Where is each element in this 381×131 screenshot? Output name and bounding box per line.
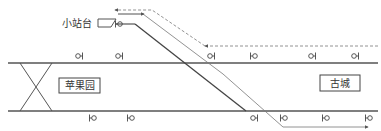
signal-icon	[281, 115, 288, 122]
siding-diagonal-track	[135, 24, 246, 111]
signal-icon	[309, 53, 316, 60]
signal-icon	[366, 115, 373, 122]
railway-diagram: 苹果园 古城 小站台	[0, 0, 381, 131]
solid-route-line	[118, 14, 368, 127]
signal-icon	[323, 115, 330, 122]
station-label-pingguoyuan: 苹果园	[65, 79, 95, 91]
signal-icon	[128, 115, 135, 122]
signal-icon	[352, 53, 359, 60]
signal-group-upper	[76, 53, 359, 60]
siding-label: 小站台	[62, 17, 92, 29]
signal-icon	[76, 53, 83, 60]
signal-group-lower	[90, 115, 373, 122]
siding-buffer	[98, 19, 116, 27]
signal-icon	[251, 115, 258, 122]
dashed-route-diagonal	[115, 10, 205, 46]
signal-icon	[116, 53, 123, 60]
station-label-gucheng: 古城	[330, 77, 350, 89]
signal-icon	[251, 53, 258, 60]
signal-icon	[90, 115, 97, 122]
signal-icon	[208, 53, 215, 60]
